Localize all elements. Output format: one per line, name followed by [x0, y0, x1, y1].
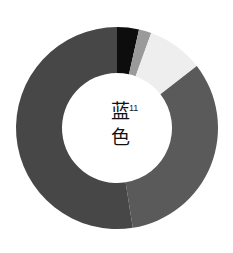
center-char-2: 色 [95, 124, 145, 150]
center-superscript: 11 [129, 103, 138, 113]
